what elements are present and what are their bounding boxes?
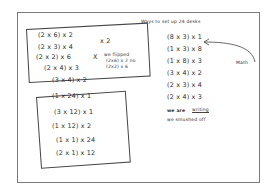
expr-right-2: (1 x 3) x 8 — [167, 45, 202, 53]
footer-strikethrough: we are — [167, 108, 185, 113]
expr-top-3-note: X — [93, 53, 98, 61]
side-note-3: (2x2) x 6 — [106, 64, 128, 69]
expr-bottom-3: (1 x 12) x 2 — [52, 122, 91, 130]
side-note-1: we flipped — [104, 52, 129, 57]
expr-bottom-4: (1 x 1) x 24 — [56, 136, 95, 144]
expr-right-5: (2 x 3) x 4 — [167, 81, 202, 89]
footer-line2: we smushed off — [167, 117, 205, 122]
page-title: Ways to set up 24 desks — [141, 19, 200, 24]
expr-bottom-2: (3 x 12) x 1 — [54, 108, 93, 116]
expr-right-3: (1 x 8) x 3 — [167, 57, 202, 65]
expr-right-1: (8 x 3) x 1 — [167, 33, 202, 41]
expr-bottom-5: (2 x 1) x 12 — [56, 149, 95, 157]
expr-bottom-1: (1 x 24) x 1 — [52, 92, 91, 100]
expr-top-1: (2 x 6) x 2 — [38, 31, 73, 39]
expr-top-4: (2 x 4) x 3 — [44, 64, 79, 72]
arrow-label: Math — [236, 60, 248, 65]
expr-top-2: (2 x 3) x 4 — [38, 43, 73, 51]
expr-right-6: (2 x 4) x 3 — [167, 93, 202, 101]
expr-top-2-note: x 2 — [100, 37, 110, 45]
footer-word: writing — [192, 107, 209, 113]
side-note-2: (2x6) x 2 no — [106, 58, 136, 63]
expr-right-4: (3 x 4) x 2 — [167, 69, 202, 77]
arrow-icon — [200, 36, 260, 66]
expr-top-3: (2 x 2) x 6 — [36, 53, 71, 61]
expr-top-5: (3 x 4) x 2 — [52, 76, 87, 84]
